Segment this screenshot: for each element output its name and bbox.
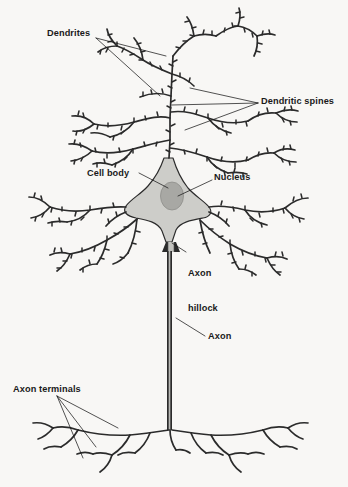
- axon-shaft: [167, 251, 172, 430]
- neuron-diagram-figure: Dendrites Dendritic spines Cell body Nuc…: [0, 0, 348, 487]
- label-cell-body: Cell body: [87, 168, 129, 180]
- label-dendritic-spines: Dendritic spines: [261, 96, 334, 108]
- label-axon-hillock-line2: hillock: [188, 303, 218, 315]
- axon-hillock-shape: [162, 242, 180, 252]
- cell-body-soma: [125, 158, 211, 242]
- label-dendrites: Dendrites: [47, 28, 90, 40]
- axon-terminal-arbor: [33, 423, 308, 472]
- leader-lines: [57, 38, 258, 458]
- label-axon-terminals: Axon terminals: [13, 384, 81, 396]
- label-axon: Axon: [208, 331, 231, 343]
- label-axon-hillock-line1: Axon: [188, 268, 218, 280]
- neuron-illustration: [0, 0, 348, 487]
- label-axon-hillock: Axon hillock: [188, 245, 218, 337]
- label-nucleus: Nucleus: [214, 172, 250, 184]
